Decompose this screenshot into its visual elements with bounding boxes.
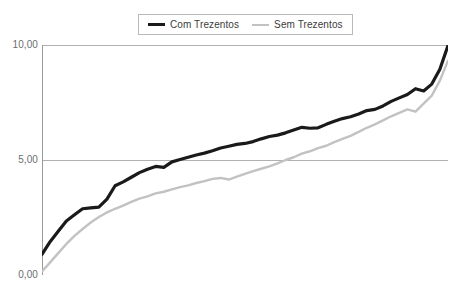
y-tick-label-10: 10,00: [2, 40, 38, 50]
chart-legend: Com Trezentos Sem Trezentos: [138, 14, 353, 35]
plot-area: [42, 45, 448, 275]
series-line-com-trezentos: [42, 45, 448, 254]
legend-label-sem-trezentos: Sem Trezentos: [274, 19, 343, 30]
series-lines: [42, 45, 448, 271]
legend-item-sem-trezentos[interactable]: Sem Trezentos: [252, 19, 343, 30]
legend-label-com-trezentos: Com Trezentos: [170, 19, 239, 30]
legend-line-swatch-light-icon: [252, 24, 269, 26]
legend-line-swatch-dark-icon: [148, 23, 165, 26]
series-line-sem-trezentos: [42, 61, 448, 272]
chart-svg: [42, 45, 448, 275]
chart-container: Com Trezentos Sem Trezentos 10,00 5,00 0…: [0, 0, 460, 291]
y-tick-label-5: 5,00: [2, 155, 38, 165]
y-axis-tick-labels: 10,00 5,00 0,00: [0, 0, 38, 291]
gridlines: [42, 46, 448, 276]
y-tick-label-0: 0,00: [2, 270, 38, 280]
legend-item-com-trezentos[interactable]: Com Trezentos: [148, 19, 239, 30]
